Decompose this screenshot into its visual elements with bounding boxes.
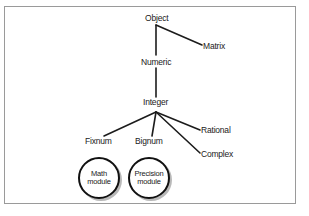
node-rational: Rational <box>201 126 231 135</box>
edge-integer-fixnum <box>104 112 156 136</box>
node-object: Object <box>145 14 168 23</box>
edge-integer-rational <box>156 112 200 130</box>
node-bignum: Bignum <box>135 137 163 146</box>
node-complex: Complex <box>201 150 233 159</box>
node-precision-module: Precision module <box>128 157 170 199</box>
edge-object-matrix <box>156 25 202 45</box>
node-math-module: Math module <box>78 157 120 199</box>
edge-integer-complex <box>156 112 200 153</box>
node-fixnum: Fixnum <box>85 137 112 146</box>
node-numeric: Numeric <box>141 58 171 67</box>
precision-module-label-line2: module <box>137 178 160 187</box>
node-integer: Integer <box>143 98 168 107</box>
diagram-figure: Object Matrix Numeric Integer Fixnum Big… <box>0 0 309 216</box>
node-matrix: Matrix <box>203 42 225 51</box>
edge-integer-bignum <box>152 112 156 136</box>
math-module-label-line2: module <box>87 178 110 187</box>
